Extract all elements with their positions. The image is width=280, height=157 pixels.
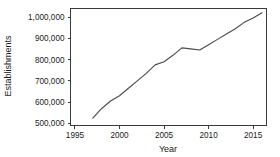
x-tick-label: 2010	[199, 131, 218, 140]
x-tick-label: 2005	[155, 131, 174, 140]
x-axis-title: Year	[159, 144, 177, 154]
y-axis-title: Establishments	[3, 35, 13, 97]
chart-canvas: 500,000600,000700,000800,000900,0001,000…	[0, 0, 280, 157]
y-tick-label: 900,000	[35, 34, 65, 43]
y-tick-label: 1,000,000	[28, 13, 65, 22]
line-chart: 500,000600,000700,000800,000900,0001,000…	[0, 0, 280, 157]
y-tick-label: 700,000	[35, 77, 65, 86]
x-tick-label: 2015	[244, 131, 263, 140]
y-tick-label: 600,000	[35, 98, 65, 107]
x-tick-label: 1995	[66, 131, 85, 140]
y-tick-label: 500,000	[35, 119, 65, 128]
y-tick-label: 800,000	[35, 56, 65, 65]
x-tick-label: 2000	[110, 131, 129, 140]
